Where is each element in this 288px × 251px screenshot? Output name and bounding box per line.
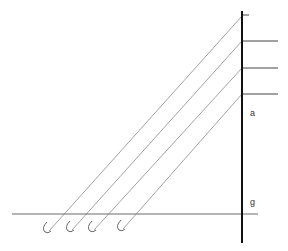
hook-icon-1 [43, 222, 51, 233]
diagonal-line-4 [123, 94, 242, 229]
label-g: g [250, 197, 255, 207]
diagonal-line-3 [94, 68, 242, 230]
diagonal-line-2 [72, 41, 242, 230]
hook-icon-2 [66, 221, 74, 232]
hook-icon-3 [88, 221, 96, 232]
horizontal-lines [242, 15, 278, 94]
diagram-canvas: a g [0, 0, 288, 251]
diagonal-lines [49, 16, 242, 231]
hook-icon-4 [117, 220, 125, 231]
diagonal-line-1 [49, 16, 242, 231]
label-a: a [250, 108, 255, 118]
hooks [43, 220, 125, 233]
